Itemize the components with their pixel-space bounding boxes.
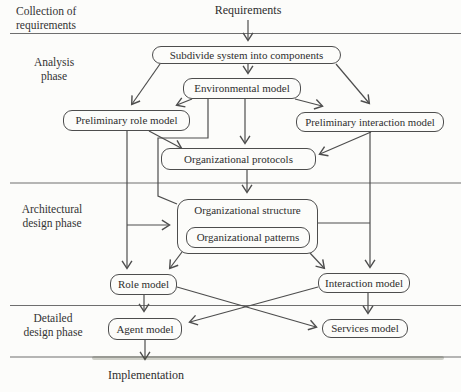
node-role-model: Role model [110,274,177,295]
node-interaction-model: Interaction model [318,273,410,293]
node-organizational-protocols: Organizational protocols [161,148,316,170]
organizational-structure-label: Organizational structure [178,205,317,216]
phase-label-line: Collection of [16,5,76,19]
scan-artifact-smudge [92,356,444,360]
node-preliminary-interaction-model: Preliminary interaction model [296,112,444,132]
requirements-label: Requirements [198,4,298,16]
phase-label-architectural: Architectural design phase [14,203,90,230]
phase-label-line: Analysis [18,56,90,70]
phase-label-line: phase [18,70,90,84]
node-environmental-model: Environmental model [183,78,301,99]
phase-label-detailed: Detailed design phase [14,312,92,339]
methodology-flowchart: Collection of requirements Analysis phas… [0,0,461,392]
node-subdivide-system: Subdivide system into components [152,46,341,64]
phase-label-line: requirements [16,19,76,33]
node-agent-model: Agent model [108,318,182,340]
node-preliminary-role-model: Preliminary role model [63,110,190,131]
phase-label-line: design phase [14,326,92,340]
node-organizational-patterns: Organizational patterns [186,227,310,248]
node-services-model: Services model [322,319,408,338]
phase-label-line: Architectural [14,203,90,217]
edge-arrows [127,20,371,359]
node-organizational-structure: Organizational structure Organizational … [177,199,318,254]
implementation-label: Implementation [100,369,192,381]
phase-label-analysis: Analysis phase [18,56,90,83]
phase-label-line: Detailed [14,312,92,326]
phase-label-collection: Collection of requirements [16,5,76,32]
phase-label-line: design phase [14,217,90,231]
